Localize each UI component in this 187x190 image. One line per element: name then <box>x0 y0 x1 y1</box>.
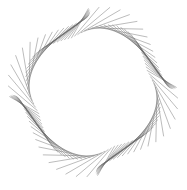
strand-line <box>96 143 125 172</box>
strand-line <box>98 146 115 176</box>
string-art-strands <box>8 7 178 177</box>
strand-line <box>97 145 118 175</box>
strand-line <box>64 11 89 40</box>
strand-line <box>57 13 90 42</box>
strand-line <box>97 144 122 173</box>
strand-line <box>144 60 173 89</box>
strand-line <box>71 8 88 38</box>
strand-line <box>68 10 89 40</box>
strand-line <box>13 95 42 124</box>
strand-line <box>145 63 174 88</box>
strand-line <box>9 97 39 114</box>
strand-line <box>14 95 43 128</box>
strand-line <box>61 12 90 41</box>
strand-line <box>143 56 172 89</box>
strand-line <box>11 96 41 117</box>
strand-line <box>146 67 176 88</box>
strand-line <box>12 96 41 121</box>
string-art-figure <box>0 0 187 190</box>
strand-line <box>147 70 177 87</box>
strand-line <box>96 142 129 171</box>
